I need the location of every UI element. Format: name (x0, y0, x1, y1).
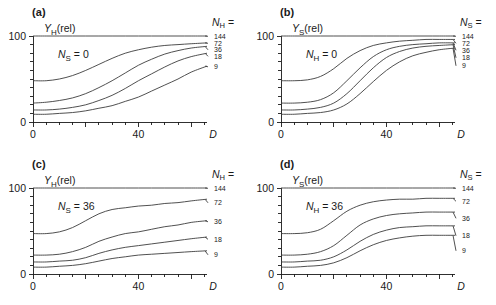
legend-title: NS = (460, 16, 482, 30)
y-tick-label: 100 (8, 30, 26, 42)
legend-label-72: 72 (214, 199, 222, 206)
y-tick-label: 100 (256, 182, 274, 194)
curve-series-18 (33, 53, 207, 110)
x-tick-label: 0 (278, 128, 284, 140)
x-tick-label: 40 (133, 128, 145, 140)
curve-series-72 (33, 43, 207, 81)
curve-series-72 (33, 199, 207, 234)
curve-series-18 (281, 45, 455, 110)
legend-leader-line (453, 235, 456, 251)
panel-c: (c)YH(rel)NS = 361000040DNH =1447236189 (0, 152, 248, 304)
legend-title: NH = (212, 168, 234, 182)
legend-label-18: 18 (214, 236, 222, 243)
legend-title: NH = (212, 16, 234, 30)
legend-leader-line (205, 221, 208, 222)
legend-label-36: 36 (462, 47, 470, 54)
x-tick-label: 40 (381, 280, 393, 292)
curve-series-18 (281, 226, 455, 262)
legend-label-144: 144 (462, 33, 474, 40)
legend-leader-line (453, 226, 456, 236)
y-tick-label: 100 (256, 30, 274, 42)
legend-label-144: 144 (214, 185, 226, 192)
y-tick-label: 100 (8, 182, 26, 194)
legend-label-144: 144 (214, 33, 226, 40)
y-tick-label: 0 (268, 268, 274, 280)
curve-series-36 (281, 212, 455, 255)
x-tick-label: 0 (30, 128, 36, 140)
plot-area: 1000040DNH =1447236189 (0, 152, 248, 304)
x-tick-label: 0 (278, 280, 284, 292)
x-axis-label: D (209, 280, 217, 292)
x-axis-label: D (209, 128, 217, 140)
curve-series-9 (281, 235, 455, 267)
panel-a: (a)YH(rel)NS = 01000040DNH =1447236189 (0, 0, 248, 152)
y-tick-label: 0 (268, 116, 274, 128)
legend-label-18: 18 (462, 232, 470, 239)
legend-label-72: 72 (462, 198, 470, 205)
curve-series-9 (33, 66, 207, 114)
plot-area: 1000040DNS =1447236189 (248, 0, 496, 152)
y-tick-label: 0 (20, 268, 26, 280)
curve-series-9 (33, 251, 207, 267)
legend-label-9: 9 (214, 63, 218, 70)
legend-label-18: 18 (462, 54, 470, 61)
curve-series-18 (33, 237, 207, 262)
legend-title: NS = (460, 168, 482, 182)
x-axis-label: D (457, 280, 465, 292)
curve-series-9 (281, 48, 455, 114)
legend-leader-line (205, 199, 208, 203)
x-tick-label: 0 (30, 280, 36, 292)
x-tick-label: 40 (381, 128, 393, 140)
x-axis-label: D (457, 128, 465, 140)
legend-label-18: 18 (214, 53, 222, 60)
legend-label-36: 36 (462, 215, 470, 222)
legend-label-9: 9 (462, 247, 466, 254)
panel-d: (d)YS(rel)NH = 361000040DNS =1447236189 (248, 152, 496, 304)
panel-b: (b)YS(rel)NH = 01000040DNS =1447236189 (248, 0, 496, 152)
plot-area: 1000040DNH =1447236189 (0, 0, 248, 152)
curve-series-36 (33, 221, 207, 255)
figure-root: (a)YH(rel)NS = 01000040DNH =1447236189(b… (0, 0, 496, 305)
legend-label-72: 72 (462, 40, 470, 47)
curve-series-72 (281, 39, 455, 80)
legend-label-36: 36 (214, 218, 222, 225)
legend-leader-line (205, 251, 208, 255)
legend-leader-line (453, 212, 456, 218)
legend-leader-line (205, 46, 208, 49)
plot-area: 1000040DNS =1447236189 (248, 152, 496, 304)
x-tick-label: 40 (133, 280, 145, 292)
legend-label-144: 144 (462, 185, 474, 192)
legend-label-9: 9 (462, 62, 466, 69)
curve-series-72 (281, 198, 455, 233)
y-tick-label: 0 (20, 116, 26, 128)
legend-label-9: 9 (214, 251, 218, 258)
